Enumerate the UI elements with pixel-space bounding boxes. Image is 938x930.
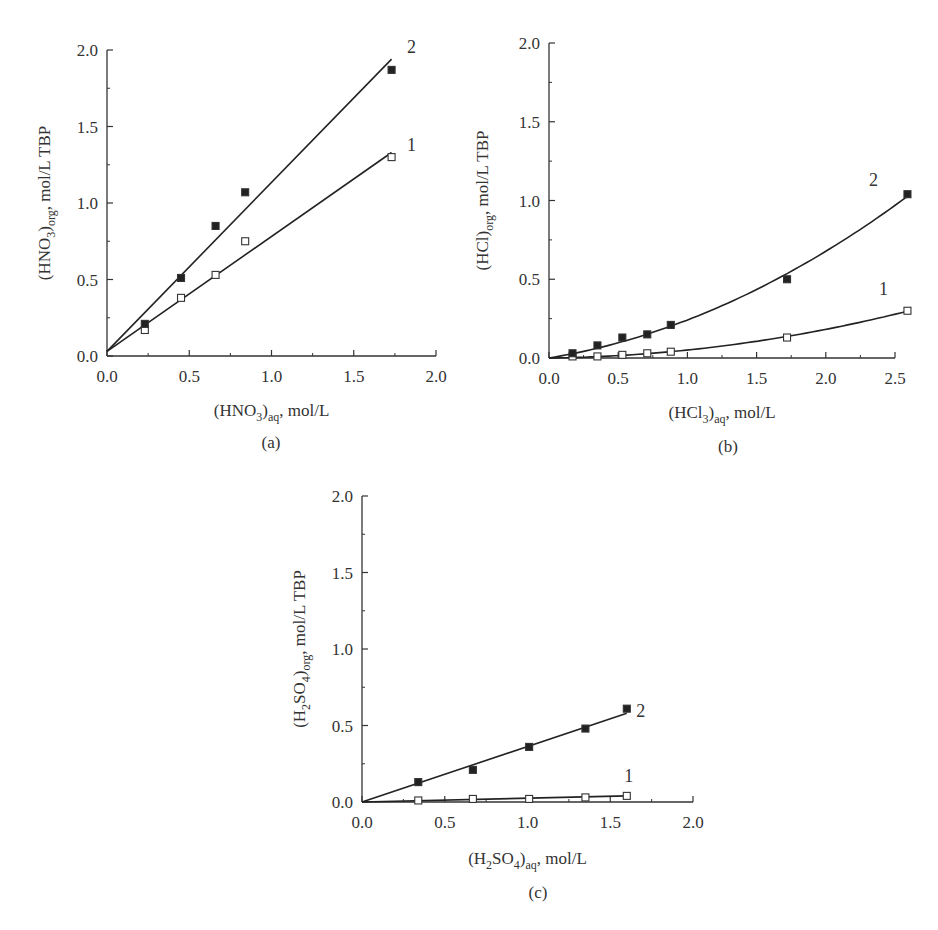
- filled-square-marker: [388, 66, 395, 73]
- y-tick-label: 0.5: [77, 271, 98, 290]
- x-tick-label: 2.0: [682, 813, 703, 832]
- curve-label: 2: [869, 170, 878, 190]
- open-square-marker: [784, 334, 791, 341]
- panel-caption: (a): [262, 433, 281, 452]
- x-tick-label: 1.5: [600, 813, 621, 832]
- filled-square-marker: [667, 321, 674, 328]
- y-tick-label: 0.0: [519, 349, 540, 368]
- x-axis-title: (HCl3)aq, mol/L: [668, 403, 775, 426]
- x-tick-label: 1.0: [677, 369, 698, 388]
- x-tick-label: 1.0: [261, 367, 282, 386]
- filled-square-marker: [784, 276, 791, 283]
- chart-panel-b: 0.00.51.01.52.02.50.00.51.01.52.0(HCl3)a…: [473, 34, 911, 456]
- x-tick-label: 2.5: [884, 369, 905, 388]
- x-tick-label: 0.0: [96, 367, 117, 386]
- axes: 0.00.51.01.52.02.50.00.51.01.52.0: [519, 34, 906, 388]
- filled-square-marker: [415, 779, 422, 786]
- x-tick-label: 2.0: [815, 369, 836, 388]
- filled-square-marker: [623, 705, 630, 712]
- chart-panel-c: 0.00.51.01.52.00.00.51.01.52.0(H2SO4)aq,…: [290, 487, 704, 902]
- open-square-marker: [904, 307, 911, 314]
- x-axis-title: (H2SO4)aq, mol/L: [468, 849, 587, 872]
- axes: 0.00.51.01.52.00.00.51.01.52.0: [332, 487, 704, 832]
- open-square-marker: [667, 348, 674, 355]
- y-axis-title: (H2SO4)org, mol/L TBP: [290, 570, 313, 728]
- series-2: 2: [549, 170, 911, 358]
- series-1: 1: [107, 135, 416, 352]
- filled-square-marker: [212, 222, 219, 229]
- x-tick-label: 0.0: [351, 813, 372, 832]
- y-tick-label: 1.0: [77, 194, 98, 213]
- x-tick-label: 1.0: [517, 813, 538, 832]
- open-square-marker: [644, 350, 651, 357]
- panel-caption: (c): [529, 883, 548, 902]
- open-square-marker: [623, 792, 630, 799]
- filled-square-marker: [644, 331, 651, 338]
- filled-square-marker: [242, 189, 249, 196]
- filled-square-marker: [178, 274, 185, 281]
- filled-square-marker: [904, 191, 911, 198]
- y-tick-label: 0.5: [519, 270, 540, 289]
- open-square-marker: [212, 271, 219, 278]
- open-square-marker: [619, 351, 626, 358]
- y-tick-label: 0.0: [77, 347, 98, 366]
- x-tick-label: 0.5: [434, 813, 455, 832]
- open-square-marker: [594, 353, 601, 360]
- curve-label: 1: [624, 766, 633, 786]
- open-square-marker: [582, 794, 589, 801]
- y-tick-label: 1.5: [519, 113, 540, 132]
- fit-curve: [549, 311, 908, 358]
- series-1: 1: [362, 766, 633, 804]
- panel-caption: (b): [718, 437, 738, 456]
- figure: 0.00.51.01.52.00.00.51.01.52.0(HNO3)aq, …: [0, 0, 938, 930]
- filled-square-marker: [582, 725, 589, 732]
- open-square-marker: [526, 795, 533, 802]
- series-2: 2: [362, 701, 645, 802]
- open-square-marker: [178, 294, 185, 301]
- curve-label: 1: [879, 279, 888, 299]
- y-tick-label: 1.5: [332, 564, 353, 583]
- x-tick-label: 0.5: [608, 369, 629, 388]
- y-tick-label: 0.5: [332, 717, 353, 736]
- y-tick-label: 1.5: [77, 118, 98, 137]
- y-tick-label: 2.0: [77, 41, 98, 60]
- y-axis-title: (HCl)org, mol/L TBP: [473, 131, 496, 271]
- x-axis-title: (HNO3)aq, mol/L: [214, 401, 330, 424]
- series-2: 2: [107, 37, 416, 351]
- y-axis-title: (HNO3)org, mol/L TBP: [35, 126, 58, 281]
- filled-square-marker: [569, 350, 576, 357]
- x-tick-label: 1.5: [746, 369, 767, 388]
- curve-label: 1: [407, 135, 416, 155]
- open-square-marker: [469, 795, 476, 802]
- filled-square-marker: [141, 320, 148, 327]
- fit-line: [107, 153, 392, 352]
- open-square-marker: [388, 154, 395, 161]
- y-tick-label: 0.0: [332, 793, 353, 812]
- filled-square-marker: [619, 334, 626, 341]
- fit-curve: [549, 196, 908, 358]
- open-square-marker: [415, 797, 422, 804]
- open-square-marker: [242, 238, 249, 245]
- y-tick-label: 2.0: [332, 487, 353, 506]
- y-tick-label: 1.0: [519, 192, 540, 211]
- filled-square-marker: [526, 743, 533, 750]
- filled-square-marker: [469, 766, 476, 773]
- x-tick-label: 0.0: [538, 369, 559, 388]
- x-tick-label: 2.0: [425, 367, 446, 386]
- x-tick-label: 1.5: [343, 367, 364, 386]
- curve-label: 2: [407, 37, 416, 57]
- series-1: 1: [549, 279, 911, 360]
- y-tick-label: 1.0: [332, 640, 353, 659]
- curve-label: 2: [636, 701, 645, 721]
- chart-panel-a: 0.00.51.01.52.00.00.51.01.52.0(HNO3)aq, …: [35, 37, 447, 452]
- fit-line: [107, 59, 392, 351]
- x-tick-label: 0.5: [179, 367, 200, 386]
- y-tick-label: 2.0: [519, 34, 540, 53]
- filled-square-marker: [594, 342, 601, 349]
